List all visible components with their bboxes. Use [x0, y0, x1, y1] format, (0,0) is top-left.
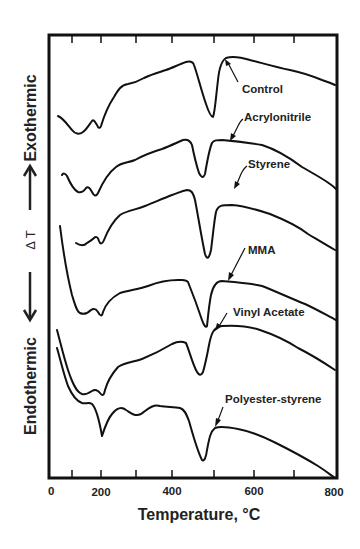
- series-label-control: Control: [242, 83, 283, 95]
- x-axis-title: Temperature, °C: [138, 506, 261, 523]
- dta-chart: 0 200 400 600 800 Temperature, °C Exothe…: [0, 0, 360, 549]
- x-tick-400: 400: [162, 485, 181, 497]
- curve-polyester-styrene: [57, 348, 335, 478]
- x-tick-800: 800: [324, 486, 343, 498]
- series-label-polyester-styrene: Polyester-styrene: [225, 393, 322, 405]
- label-mma: MMA: [228, 244, 275, 281]
- label-styrene: Styrene: [234, 158, 290, 189]
- curve-acrylonitrile: [62, 140, 336, 196]
- series-label-mma: MMA: [248, 244, 275, 256]
- y-label-delta-t: Δ T: [23, 230, 38, 250]
- label-acrylonitrile: Acrylonitrile: [230, 111, 311, 141]
- label-polyester-styrene: Polyester-styrene: [215, 393, 322, 427]
- series-label-acrylonitrile: Acrylonitrile: [244, 111, 311, 123]
- series-label-vinyl-acetate: Vinyl Acetate: [233, 306, 305, 318]
- top-ticks: [72, 36, 294, 43]
- plot-frame: [49, 35, 337, 478]
- label-control: Control: [225, 59, 283, 95]
- x-tick-200: 200: [91, 486, 110, 498]
- curve-vinyl-acetate: [57, 326, 335, 395]
- y-axis-title: Exothermic Δ T Endothermic: [22, 74, 39, 435]
- y-label-endothermic: Endothermic: [22, 337, 39, 435]
- curve-styrene: [76, 190, 335, 258]
- label-vinyl-acetate: Vinyl Acetate: [215, 306, 305, 331]
- y-label-exothermic: Exothermic: [22, 74, 39, 161]
- bottom-ticks: [72, 470, 294, 477]
- series-label-styrene: Styrene: [248, 158, 290, 170]
- x-tick-0: 0: [48, 485, 54, 497]
- x-tick-600: 600: [244, 485, 263, 497]
